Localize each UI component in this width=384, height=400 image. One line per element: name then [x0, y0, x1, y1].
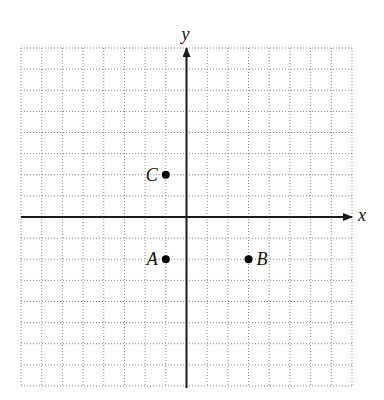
- y-axis-label: y: [180, 24, 190, 44]
- point-c-label: C: [146, 165, 159, 185]
- point-a-label: A: [146, 249, 159, 269]
- x-axis-label: x: [357, 205, 366, 225]
- point-b-marker: [245, 255, 253, 263]
- point-c-marker: [162, 171, 170, 179]
- point-a-marker: [162, 255, 170, 263]
- coordinate-plane: x y A B C: [0, 0, 384, 400]
- point-b-label: B: [257, 249, 268, 269]
